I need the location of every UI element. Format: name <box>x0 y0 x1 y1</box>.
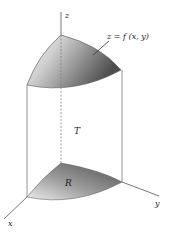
solid-under-surface-diagram: z z = f (x, y) T R x y <box>0 0 173 235</box>
region-r <box>27 163 122 200</box>
x-axis <box>4 197 27 219</box>
region-label: R <box>64 178 72 188</box>
surface-label: z = f (x, y) <box>106 32 149 41</box>
x-axis-label: x <box>8 219 13 228</box>
solid-label: T <box>74 126 81 136</box>
y-axis-label: y <box>154 199 160 208</box>
y-axis <box>122 182 159 196</box>
z-axis-label: z <box>64 11 70 20</box>
